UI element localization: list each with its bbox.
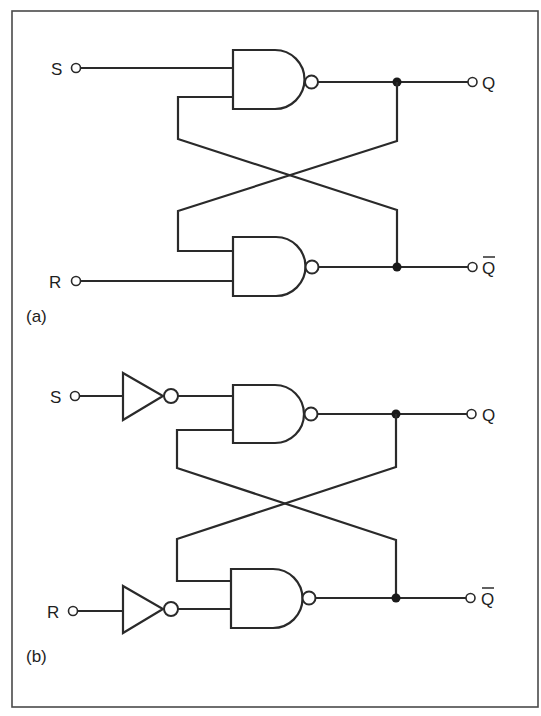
nand-gate-lower — [233, 237, 306, 296]
inverter-r-bubble — [164, 602, 178, 616]
output-q-bar-terminal — [468, 263, 477, 272]
output-q-bar-terminal — [466, 594, 475, 603]
input-s-terminal — [72, 64, 81, 73]
input-r-terminal — [69, 607, 78, 616]
panel-a: S Q Q R (a) — [26, 50, 495, 326]
input-s-terminal — [71, 392, 80, 401]
output-q-bar-label: Q — [482, 259, 495, 278]
output-q-terminal — [467, 410, 476, 419]
panel-a-label: (a) — [26, 307, 47, 326]
input-s-label: S — [51, 60, 62, 79]
panel-b-label: (b) — [26, 647, 47, 666]
nand-upper-inversion-bubble — [305, 408, 318, 421]
output-q-terminal — [468, 78, 477, 87]
inverter-s — [123, 373, 163, 420]
output-q-bar-label: Q — [481, 590, 494, 609]
output-q-label: Q — [482, 406, 495, 425]
output-q-label: Q — [482, 74, 495, 93]
inverter-s-bubble — [164, 389, 178, 403]
nand-gate-upper — [233, 385, 304, 443]
nand-lower-inversion-bubble — [306, 261, 319, 274]
input-r-terminal — [72, 277, 81, 286]
sr-latch-diagram: S Q Q R (a) S — [0, 0, 541, 716]
nand-upper-inversion-bubble — [305, 76, 318, 89]
nand-gate-upper — [233, 50, 305, 109]
input-s-label: S — [50, 388, 61, 407]
nand-lower-inversion-bubble — [303, 592, 316, 605]
input-r-label: R — [47, 603, 59, 622]
input-r-label: R — [49, 273, 61, 292]
inverter-r — [123, 586, 163, 633]
q-bar-junction-dot — [393, 263, 402, 272]
nand-gate-lower — [231, 569, 303, 628]
panel-b: S Q Q R (b) — [26, 373, 495, 666]
q-bar-junction-dot — [392, 594, 401, 603]
